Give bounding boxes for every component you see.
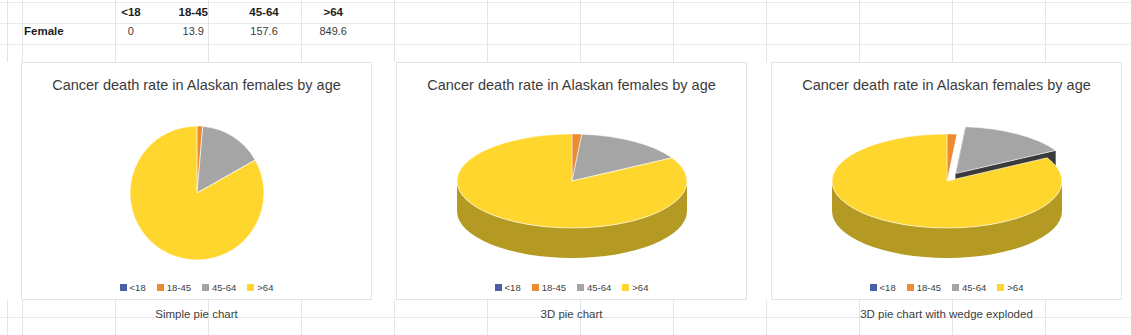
- legend-swatch-under18: [495, 284, 502, 291]
- pie-plot-area-3d-exploded[interactable]: [772, 119, 1121, 267]
- chart-title: Cancer death rate in Alaskan females by …: [38, 75, 355, 96]
- legend-swatch-under18: [120, 284, 127, 291]
- legend-item-under18[interactable]: <18: [870, 282, 896, 293]
- table-col-header-0: <18: [104, 3, 158, 22]
- legend-label-45-64: 45-64: [587, 282, 611, 293]
- chart-legend[interactable]: <18 18-45 45-64 >64: [397, 282, 746, 293]
- legend-label-45-64: 45-64: [212, 282, 236, 293]
- legend-label-over64: >64: [1007, 282, 1023, 293]
- table-header-row: <18 18-45 45-64 >64: [22, 3, 367, 22]
- legend-item-18-45[interactable]: 18-45: [157, 282, 191, 293]
- legend-item-45-64[interactable]: 45-64: [577, 282, 611, 293]
- age-rate-table[interactable]: <18 18-45 45-64 >64 Female 0 13.9 157.6 …: [22, 3, 367, 41]
- legend-item-18-45[interactable]: 18-45: [532, 282, 566, 293]
- chart-panel-3d-pie-exploded[interactable]: Cancer death rate in Alaskan females by …: [771, 62, 1122, 300]
- table-col-header-2: 45-64: [229, 3, 300, 22]
- chart-panel-simple-pie[interactable]: Cancer death rate in Alaskan females by …: [21, 62, 372, 300]
- table-col-header-3: >64: [299, 3, 367, 22]
- legend-label-18-45: 18-45: [917, 282, 941, 293]
- legend-item-45-64[interactable]: 45-64: [952, 282, 986, 293]
- legend-label-under18: <18: [880, 282, 896, 293]
- table-cell-female-over64[interactable]: 849.6: [299, 22, 367, 41]
- chart-caption-3d-pie-exploded: 3D pie chart with wedge exploded: [771, 304, 1122, 325]
- pie-plot-area-simple[interactable]: [22, 119, 371, 267]
- legend-label-over64: >64: [257, 282, 273, 293]
- legend-label-18-45: 18-45: [167, 282, 191, 293]
- chart-caption-simple-pie: Simple pie chart: [21, 304, 372, 325]
- table-cell-female-45-64[interactable]: 157.6: [229, 22, 300, 41]
- pie-svg-3d-exploded: [797, 119, 1097, 267]
- chart-title: Cancer death rate in Alaskan females by …: [788, 75, 1105, 96]
- legend-label-under18: <18: [130, 282, 146, 293]
- pie-svg-3d: [422, 119, 722, 267]
- legend-swatch-18-45: [532, 284, 539, 291]
- legend-item-45-64[interactable]: 45-64: [202, 282, 236, 293]
- legend-item-over64[interactable]: >64: [997, 282, 1023, 293]
- pie-plot-area-3d[interactable]: [397, 119, 746, 267]
- legend-swatch-over64: [247, 284, 254, 291]
- legend-swatch-over64: [622, 284, 629, 291]
- chart-caption-3d-pie: 3D pie chart: [396, 304, 747, 325]
- legend-swatch-45-64: [577, 284, 584, 291]
- pie-slice-group[interactable]: [832, 127, 1062, 258]
- table-row[interactable]: Female 0 13.9 157.6 849.6: [22, 22, 367, 41]
- table-corner-cell: [22, 3, 104, 22]
- legend-swatch-45-64: [952, 284, 959, 291]
- pie-slice-group[interactable]: [130, 126, 264, 260]
- legend-swatch-under18: [870, 284, 877, 291]
- legend-label-under18: <18: [505, 282, 521, 293]
- legend-swatch-18-45: [907, 284, 914, 291]
- legend-swatch-45-64: [202, 284, 209, 291]
- table-cell-female-18-45[interactable]: 13.9: [158, 22, 229, 41]
- legend-item-under18[interactable]: <18: [495, 282, 521, 293]
- pie-slice-group[interactable]: [457, 134, 687, 258]
- pie-svg-simple: [122, 119, 272, 267]
- legend-swatch-over64: [997, 284, 1004, 291]
- table-row-label-female: Female: [22, 22, 104, 41]
- chart-legend[interactable]: <18 18-45 45-64 >64: [22, 282, 371, 293]
- chart-legend[interactable]: <18 18-45 45-64 >64: [772, 282, 1121, 293]
- legend-swatch-18-45: [157, 284, 164, 291]
- legend-label-45-64: 45-64: [962, 282, 986, 293]
- legend-label-18-45: 18-45: [542, 282, 566, 293]
- chart-title: Cancer death rate in Alaskan females by …: [413, 75, 730, 96]
- chart-panel-3d-pie[interactable]: Cancer death rate in Alaskan females by …: [396, 62, 747, 300]
- legend-item-under18[interactable]: <18: [120, 282, 146, 293]
- legend-item-over64[interactable]: >64: [622, 282, 648, 293]
- legend-item-18-45[interactable]: 18-45: [907, 282, 941, 293]
- legend-label-over64: >64: [632, 282, 648, 293]
- table-col-header-1: 18-45: [158, 3, 229, 22]
- legend-item-over64[interactable]: >64: [247, 282, 273, 293]
- table-cell-female-under18[interactable]: 0: [104, 22, 158, 41]
